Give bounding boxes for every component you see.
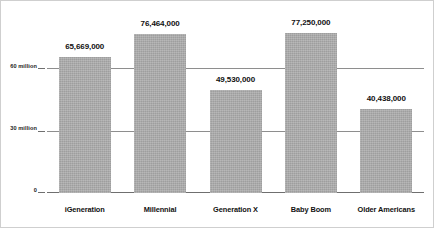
bar-slot-generation-x: 49,530,000 — [210, 6, 262, 193]
category-label-baby-boom: Baby Boom — [285, 206, 337, 213]
category-label-generation-x: Generation X — [206, 206, 266, 213]
bar-igeneration[interactable] — [59, 57, 111, 193]
category-label-older-americans: Older Americans — [350, 206, 422, 213]
tick-mark-0 — [38, 192, 45, 193]
value-label-generation-x: 49,530,000 — [210, 76, 262, 84]
bar-millennial[interactable] — [134, 34, 186, 193]
bar-baby-boom[interactable] — [285, 33, 337, 193]
value-label-igeneration: 65,669,000 — [59, 43, 111, 51]
bar-slot-baby-boom: 77,250,000 — [285, 6, 337, 193]
bar-older-americans[interactable] — [360, 109, 412, 193]
value-label-baby-boom: 77,250,000 — [285, 19, 337, 27]
category-label-millennial: Millennial — [134, 206, 186, 213]
bar-slot-igeneration: 65,669,000 — [59, 6, 111, 193]
category-label-igeneration: iGeneration — [59, 206, 111, 213]
bar-slot-millennial: 76,464,000 — [134, 6, 186, 193]
tick-mark-60m — [38, 68, 45, 69]
y-tick-label-0: 0 — [34, 188, 37, 194]
plot-area: 65,669,000 76,464,000 49,530,000 77,250,… — [47, 6, 424, 193]
bar-chart: 60 million 30 million 0 65,669,000 76,46… — [0, 0, 434, 228]
y-tick-label-30m: 30 million — [10, 126, 37, 132]
value-label-older-americans: 40,438,000 — [360, 95, 412, 103]
bar-generation-x[interactable] — [210, 90, 262, 193]
bar-slot-older-americans: 40,438,000 — [360, 6, 412, 193]
tick-mark-30m — [38, 131, 45, 132]
y-tick-label-60m: 60 million — [10, 64, 37, 70]
value-label-millennial: 76,464,000 — [134, 20, 186, 28]
y-axis-labels: 60 million 30 million 0 — [0, 6, 37, 193]
